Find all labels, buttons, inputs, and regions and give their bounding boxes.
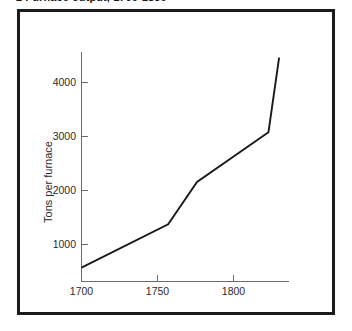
figure-caption: 2 Furnace output, 1700-1830 bbox=[16, 0, 167, 3]
chart-frame bbox=[17, 9, 335, 315]
